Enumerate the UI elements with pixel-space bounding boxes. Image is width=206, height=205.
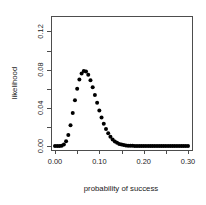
chart-container: 0.000.100.200.30 0.000.040.080.12 probab…: [0, 0, 206, 205]
y-axis-ticks: [47, 32, 51, 147]
data-point: [73, 98, 77, 102]
data-point: [186, 144, 190, 148]
data-point: [77, 78, 81, 82]
x-axis-title: probability of success: [84, 184, 159, 193]
data-point: [71, 111, 75, 115]
data-point: [95, 101, 99, 105]
x-tick-label: 0.20: [136, 157, 150, 166]
data-point: [93, 93, 97, 97]
x-tick-label: 0.30: [181, 157, 195, 166]
data-point: [66, 133, 70, 137]
y-axis-tick-labels: 0.000.040.080.12: [36, 24, 45, 153]
data-point: [86, 73, 90, 77]
data-points: [53, 69, 190, 148]
data-point: [62, 143, 66, 147]
data-point: [102, 122, 106, 126]
data-point: [88, 78, 92, 82]
likelihood-scatter-plot: 0.000.100.200.30 0.000.040.080.12 probab…: [0, 0, 206, 205]
data-point: [75, 87, 79, 91]
y-tick-label: 0.04: [36, 101, 45, 115]
y-tick-label: 0.08: [36, 62, 45, 76]
data-point: [104, 127, 108, 131]
data-point: [91, 85, 95, 89]
x-axis-tick-labels: 0.000.100.200.30: [48, 157, 195, 166]
data-point: [64, 139, 68, 143]
y-tick-label: 0.12: [36, 24, 45, 38]
data-point: [106, 131, 110, 135]
data-point: [84, 70, 88, 74]
data-point: [97, 109, 101, 113]
plot-frame: [52, 17, 193, 151]
x-tick-label: 0.10: [92, 157, 106, 166]
y-axis-title: likelihood: [10, 67, 19, 100]
x-tick-label: 0.00: [48, 157, 62, 166]
data-point: [100, 116, 104, 120]
data-point: [69, 123, 73, 127]
y-tick-label: 0.00: [36, 139, 45, 153]
